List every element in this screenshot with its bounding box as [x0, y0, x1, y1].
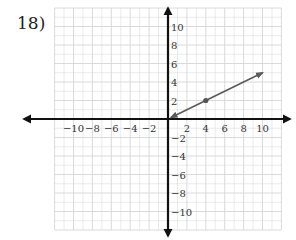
x-tick-label: 8: [240, 123, 246, 134]
y-tick-label: −2: [171, 133, 186, 144]
x-tick-label: −6: [104, 123, 119, 134]
x-tick-label: 4: [203, 123, 209, 134]
y-tick-label: −4: [171, 151, 186, 162]
x-tick-label: −2: [142, 123, 157, 134]
x-tick-label: −8: [85, 123, 100, 134]
y-tick-label: 6: [171, 59, 177, 70]
y-tick-label: −6: [171, 170, 186, 181]
y-tick-label: −8: [171, 188, 186, 199]
y-tick-label: 2: [171, 96, 177, 107]
coordinate-plane: −10−8−6−4−2246810108642−2−4−6−8−10: [0, 0, 296, 240]
x-tick-label: −10: [63, 123, 84, 134]
ray-segment: [171, 73, 263, 118]
y-tick-label: 4: [171, 77, 177, 88]
y-tick-label: 10: [171, 22, 184, 33]
x-tick-label: −4: [123, 123, 138, 134]
marked-point: [203, 98, 208, 103]
data-series: [171, 73, 263, 118]
y-tick-label: 8: [171, 40, 177, 51]
x-tick-label: 10: [256, 123, 269, 134]
x-tick-label: 6: [222, 123, 228, 134]
y-tick-label: −10: [171, 207, 192, 218]
